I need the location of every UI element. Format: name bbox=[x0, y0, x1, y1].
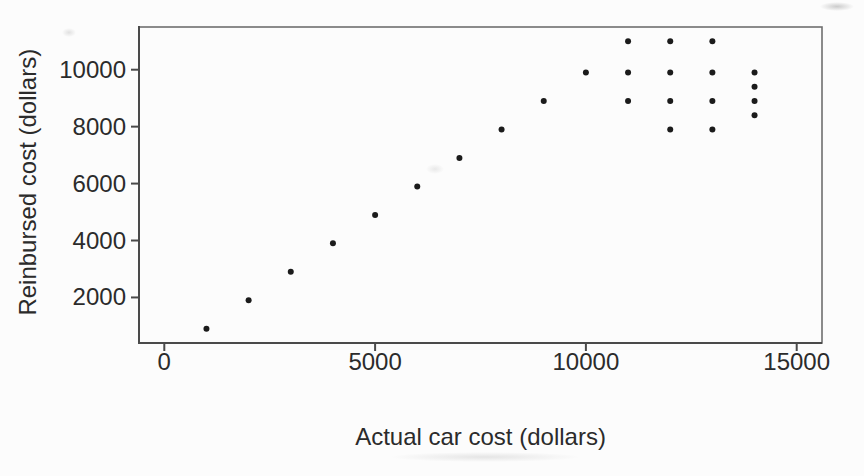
data-point bbox=[709, 98, 715, 104]
y-tick-label: 4000 bbox=[73, 227, 126, 254]
data-point bbox=[667, 126, 673, 132]
data-point bbox=[583, 70, 589, 76]
data-point bbox=[456, 155, 462, 161]
y-tick-label: 2000 bbox=[73, 283, 126, 310]
data-point bbox=[372, 212, 378, 218]
data-point bbox=[752, 84, 758, 90]
x-tick-label: 15000 bbox=[763, 348, 830, 375]
y-tick-label: 10000 bbox=[59, 56, 126, 83]
y-tick-label: 8000 bbox=[73, 113, 126, 140]
data-point bbox=[625, 70, 631, 76]
data-point bbox=[246, 297, 252, 303]
x-tick-label: 10000 bbox=[553, 348, 620, 375]
y-tick-label: 6000 bbox=[73, 170, 126, 197]
data-point bbox=[541, 98, 547, 104]
y-axis-title: Reinbursed cost (dollars) bbox=[15, 2, 41, 362]
x-tick-label: 5000 bbox=[348, 348, 401, 375]
plot-area: 050001000015000200040006000800010000 bbox=[0, 0, 864, 476]
data-point bbox=[499, 126, 505, 132]
data-point bbox=[667, 98, 673, 104]
data-point bbox=[752, 112, 758, 118]
data-point bbox=[709, 126, 715, 132]
data-point bbox=[752, 98, 758, 104]
data-point bbox=[414, 183, 420, 189]
data-point bbox=[709, 38, 715, 44]
data-point bbox=[203, 326, 209, 332]
data-point bbox=[709, 70, 715, 76]
data-point bbox=[625, 98, 631, 104]
plot-frame bbox=[139, 27, 822, 343]
data-point bbox=[330, 240, 336, 246]
data-point bbox=[625, 38, 631, 44]
x-axis-title: Actual car cost (dollars) bbox=[139, 424, 822, 450]
data-point bbox=[752, 70, 758, 76]
scatter-plot-figure: 050001000015000200040006000800010000 Act… bbox=[0, 0, 864, 476]
data-point bbox=[667, 70, 673, 76]
data-point bbox=[288, 269, 294, 275]
x-tick-label: 0 bbox=[158, 348, 171, 375]
data-point bbox=[667, 38, 673, 44]
